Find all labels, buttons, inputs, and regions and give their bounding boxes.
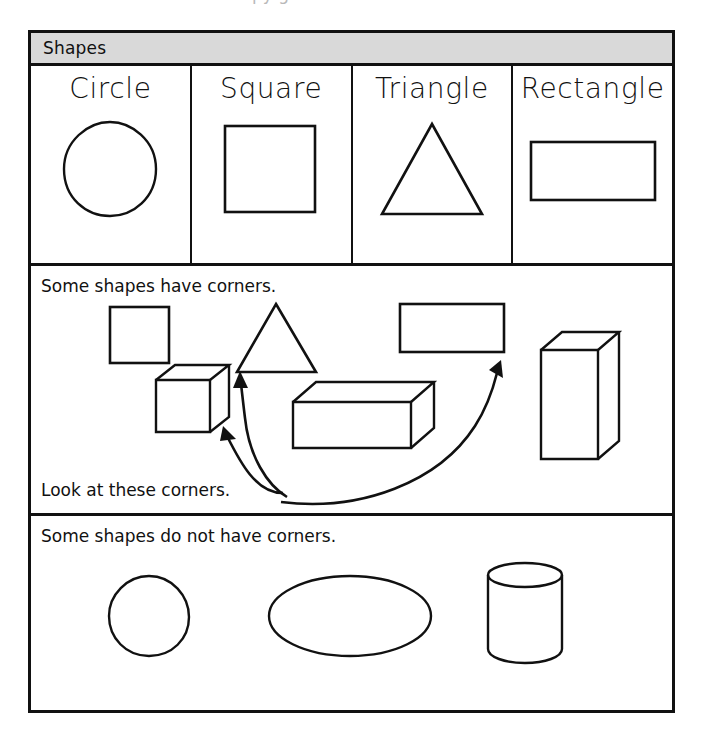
triangle-outline-icon [353, 114, 512, 262]
triangle-outline-figure [237, 304, 316, 372]
tall-rectangular-prism-3d-figure [541, 332, 619, 459]
corners-subcaption: Look at these corners. [41, 480, 230, 500]
rectangle-outline-figure [400, 304, 504, 352]
cylinder-3d-figure [488, 563, 562, 663]
square-outline-icon [192, 114, 351, 262]
shape-gallery: Circle Square Triangle [31, 66, 672, 266]
circle-outline-figure [109, 576, 189, 656]
gallery-cell-rectangle: Rectangle [513, 66, 672, 263]
gallery-label-square: Square [192, 72, 351, 105]
corners-illustration [31, 266, 672, 510]
worksheet-frame: Shapes Circle Square Triangle [28, 30, 675, 713]
page-top-artifact: py g [0, 0, 702, 14]
shapes-with-corners-section: Some shapes have corners. [31, 266, 672, 516]
rectangle-outline-icon [513, 114, 672, 262]
nocorners-caption: Some shapes do not have corners. [41, 526, 336, 546]
header-band: Shapes [31, 33, 672, 66]
gallery-label-circle: Circle [31, 72, 190, 105]
shapes-without-corners-section: Some shapes do not have corners. [31, 516, 672, 710]
cube-3d-figure [156, 365, 229, 432]
arrow-to-triangle-corner [233, 371, 287, 497]
rectangular-prism-3d-figure [293, 382, 434, 448]
gallery-cell-triangle: Triangle [353, 66, 514, 263]
square-outline-figure [110, 307, 169, 363]
gallery-label-triangle: Triangle [353, 72, 512, 105]
page-top-partial-text: py g [252, 0, 289, 4]
gallery-cell-square: Square [192, 66, 353, 263]
gallery-label-rectangle: Rectangle [513, 72, 672, 105]
gallery-cell-circle: Circle [31, 66, 192, 263]
page-title: Shapes [43, 38, 106, 58]
circle-outline-icon [31, 114, 190, 262]
ellipse-outline-figure [269, 576, 431, 656]
nocorners-illustration [31, 554, 672, 704]
